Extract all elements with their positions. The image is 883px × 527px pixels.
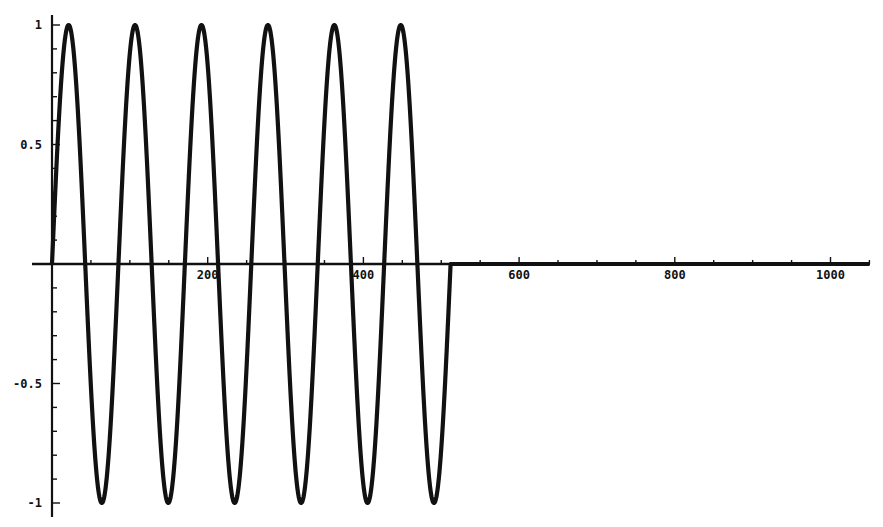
y-tick-label: -0.5 bbox=[13, 377, 42, 391]
x-tick-label: 400 bbox=[353, 268, 375, 282]
x-tick-label: 600 bbox=[508, 268, 530, 282]
chart: 200400600800100010.5-0.5-1 bbox=[0, 0, 883, 527]
y-tick-label: 1 bbox=[35, 18, 42, 32]
y-tick-label: 0.5 bbox=[20, 138, 42, 152]
y-tick-label: -1 bbox=[28, 496, 42, 510]
x-tick-label: 1000 bbox=[816, 268, 845, 282]
x-tick-label: 200 bbox=[197, 268, 219, 282]
x-tick-label: 800 bbox=[664, 268, 686, 282]
